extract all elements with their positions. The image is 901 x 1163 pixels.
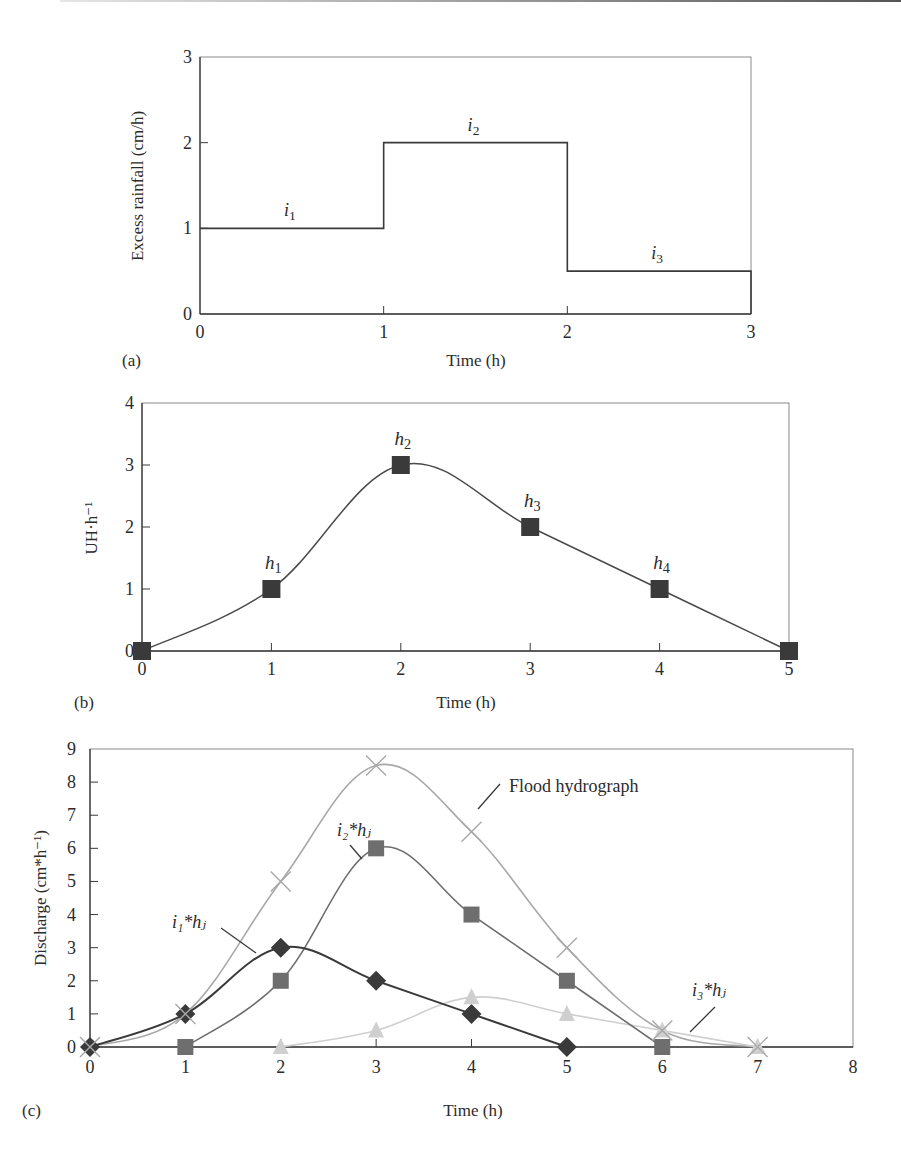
leader-line [478, 784, 500, 809]
series-line [90, 947, 567, 1047]
x-tick-label: 0 [86, 1057, 95, 1077]
x-tick-label: 2 [276, 1057, 285, 1077]
x-tick-label: 5 [785, 659, 794, 679]
series-label: h4 [653, 552, 670, 576]
series-label: h3 [524, 490, 541, 514]
x-tick-label: 3 [747, 322, 756, 342]
y-tick-label: 9 [67, 739, 76, 759]
square-marker [780, 642, 798, 660]
panel-a-label: (a) [122, 351, 141, 370]
diamond-marker [462, 1004, 482, 1024]
series-label: h2 [394, 428, 411, 452]
x-tick-label: 1 [379, 322, 388, 342]
panel-b-unit-hydrograph: 01234501234h1h2h3h4 [125, 393, 798, 679]
x-tick-label: 8 [849, 1057, 858, 1077]
square-marker [262, 580, 280, 598]
x-tick-label: 7 [753, 1057, 762, 1077]
y-tick-label: 8 [67, 772, 76, 792]
panel-c-xlabel: Time (h) [443, 1101, 502, 1120]
diamond-marker [271, 938, 291, 958]
y-tick-label: 4 [125, 393, 134, 413]
x-tick-label: 3 [526, 659, 535, 679]
panel-a-excess-rainfall: 01230123i1i2i3 [183, 47, 756, 342]
series-label: h1 [265, 552, 282, 576]
leader-line [690, 1007, 715, 1032]
square-marker [368, 840, 384, 856]
panel-a-xlabel: Time (h) [446, 351, 505, 370]
square-marker [133, 642, 151, 660]
unit-hydrograph-curve [142, 463, 789, 651]
leader-line [350, 845, 362, 859]
y-tick-label: 5 [67, 871, 76, 891]
y-tick-label: 1 [125, 579, 134, 599]
figure: 01230123i1i2i3 01234501234h1h2h3h4 01234… [0, 0, 901, 1163]
y-tick-label: 1 [67, 1004, 76, 1024]
y-tick-label: 0 [67, 1037, 76, 1057]
y-tick-label: 3 [125, 455, 134, 475]
y-tick-label: 2 [183, 133, 192, 153]
y-tick-label: 2 [125, 517, 134, 537]
square-marker [464, 907, 480, 923]
x-tick-label: 2 [396, 659, 405, 679]
diamond-marker [557, 1037, 577, 1057]
y-tick-label: 6 [67, 838, 76, 858]
square-marker [559, 973, 575, 989]
square-marker [521, 518, 539, 536]
y-tick-label: 3 [67, 938, 76, 958]
y-tick-label: 0 [183, 304, 192, 324]
x-tick-label: 4 [467, 1057, 476, 1077]
x-tick-label: 0 [196, 322, 205, 342]
annotation-label: i₁*hⱼ [172, 912, 206, 932]
panel-c-label: (c) [22, 1101, 41, 1120]
x-tick-label: 1 [267, 659, 276, 679]
y-tick-label: 4 [67, 905, 76, 925]
diamond-marker [366, 971, 386, 991]
plot-frame [142, 403, 789, 651]
plot-frame [200, 57, 751, 314]
x-tick-label: 3 [372, 1057, 381, 1077]
x-tick-label: 2 [563, 322, 572, 342]
square-marker [654, 1039, 670, 1055]
x-tick-label: 6 [658, 1057, 667, 1077]
square-marker [177, 1039, 193, 1055]
panel-c-ylabel: Discharge (cm*h⁻¹) [31, 830, 50, 966]
y-tick-label: 7 [67, 805, 76, 825]
square-marker [392, 456, 410, 474]
x-tick-label: 0 [138, 659, 147, 679]
y-tick-label: 3 [183, 47, 192, 67]
x-tick-label: 5 [562, 1057, 571, 1077]
panel-a-ylabel: Excess rainfall (cm/h) [128, 111, 147, 261]
rainfall-step-line [200, 143, 751, 314]
series-label: i2 [468, 115, 480, 138]
series-label: i3 [651, 243, 663, 266]
annotation-label: i₃*hⱼ [692, 980, 726, 1000]
series-label: i1 [284, 200, 296, 223]
y-tick-label: 0 [125, 641, 134, 661]
y-tick-label: 1 [183, 218, 192, 238]
x-tick-label: 4 [655, 659, 664, 679]
series-line [90, 764, 758, 1047]
annotation-label: i₂*hⱼ [337, 820, 371, 840]
square-marker [651, 580, 669, 598]
panel-b-ylabel: UH·h⁻¹ [82, 502, 101, 555]
x-tick-label: 1 [181, 1057, 190, 1077]
y-tick-label: 2 [67, 971, 76, 991]
series-line [185, 847, 662, 1047]
leader-line [221, 928, 256, 953]
panel-b-xlabel: Time (h) [436, 693, 495, 712]
panel-c-discharge: 0123456780123456789Flood hydrographi₂*hⱼ… [67, 739, 858, 1077]
square-marker [273, 973, 289, 989]
panel-b-label: (b) [74, 693, 94, 712]
annotation-label: Flood hydrograph [509, 776, 639, 796]
